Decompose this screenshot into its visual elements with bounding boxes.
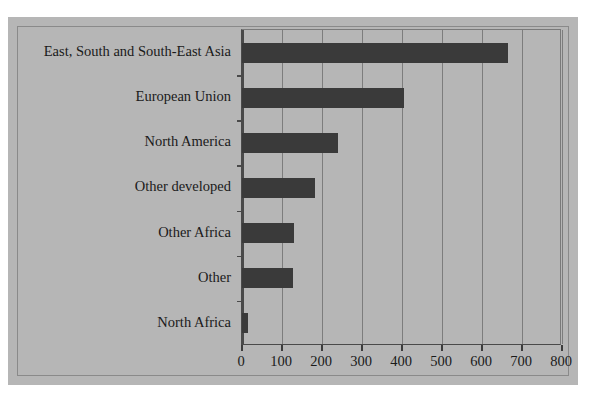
value-tick-label: 200 — [310, 353, 332, 370]
value-tick-700 — [521, 345, 523, 351]
bar-series — [242, 30, 560, 344]
category-axis-labels: East, South and South-East AsiaEuropean … — [20, 29, 235, 345]
bar-other-developed — [242, 178, 315, 198]
bar-row — [242, 75, 560, 120]
value-tick-label: 500 — [430, 353, 452, 370]
bar-row — [242, 30, 560, 75]
category-label: North America — [144, 119, 231, 164]
category-label: Other developed — [135, 164, 231, 209]
value-tick-300 — [361, 345, 363, 351]
value-tick-label: 600 — [470, 353, 492, 370]
value-tick-label: 400 — [390, 353, 412, 370]
value-tick-500 — [441, 345, 443, 351]
value-tick-200 — [321, 345, 323, 351]
bar-other — [242, 268, 293, 288]
value-tick-0 — [241, 345, 243, 351]
bar-row — [242, 211, 560, 256]
category-label: European Union — [136, 74, 231, 119]
value-tick-label: 800 — [550, 353, 572, 370]
bar-european-union — [242, 88, 404, 108]
category-label: North Africa — [157, 300, 231, 345]
bar-east-south-and-south-east-asia — [242, 43, 508, 63]
value-tick-400 — [401, 345, 403, 351]
category-label: Other Africa — [158, 210, 231, 255]
plot-area — [241, 29, 561, 345]
chart-figure-panel: East, South and South-East AsiaEuropean … — [8, 17, 578, 385]
bar-other-africa — [242, 223, 294, 243]
bar-row — [242, 120, 560, 165]
bar-north-africa — [242, 313, 248, 333]
bar-row — [242, 301, 560, 346]
value-tick-label: 100 — [270, 353, 292, 370]
bar-north-america — [242, 133, 338, 153]
value-tick-label: 300 — [350, 353, 372, 370]
bar-row — [242, 256, 560, 301]
bar-row — [242, 165, 560, 210]
category-label: East, South and South-East Asia — [44, 29, 231, 74]
value-tick-100 — [281, 345, 283, 351]
top-text-fragment — [34, 0, 154, 7]
value-tick-800 — [561, 345, 563, 351]
gridline-800 — [562, 30, 563, 344]
value-tick-600 — [481, 345, 483, 351]
value-tick-label: 0 — [237, 353, 244, 370]
category-label: Other — [198, 255, 231, 300]
value-axis: 0100200300400500600700800 — [241, 345, 561, 379]
value-tick-label: 700 — [510, 353, 532, 370]
